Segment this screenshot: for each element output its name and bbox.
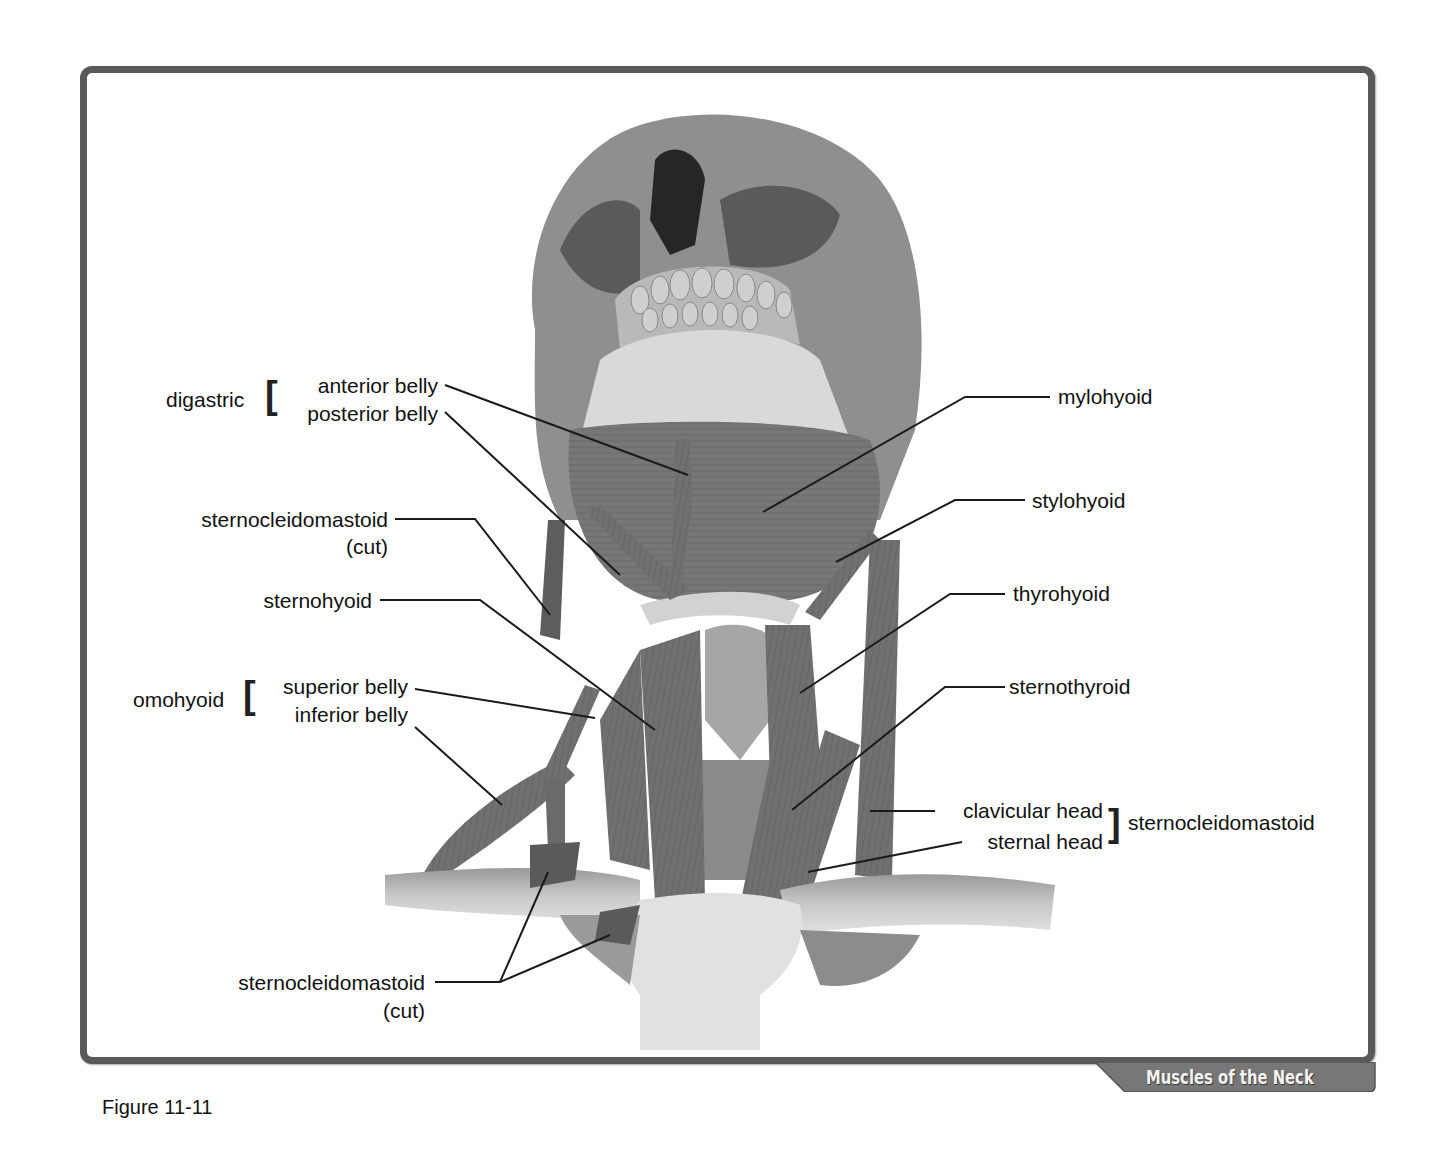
sternocleidomastoid-right — [855, 540, 900, 880]
label-stylohyoid: stylohyoid — [1032, 489, 1125, 513]
label-sternal-head: sternal head — [900, 830, 1103, 854]
sternohyoid-muscle — [640, 630, 705, 900]
bracket-right-icon: ] — [1108, 804, 1121, 842]
label-sternohyoid: sternohyoid — [200, 589, 372, 613]
label-digastric-posterior-belly: posterior belly — [278, 402, 438, 426]
label-clavicular-head: clavicular head — [900, 799, 1103, 823]
thyroid-cartilage — [705, 625, 775, 760]
label-omohyoid: omohyoid — [133, 688, 224, 712]
title-tab-text: Muscles of the Neck — [1146, 1062, 1310, 1092]
label-sternocleidomastoid-cut-upper-note: (cut) — [150, 535, 388, 559]
label-omohyoid-superior-belly: superior belly — [256, 675, 408, 699]
omohyoid-tendon — [545, 780, 565, 850]
sternum-manubrium — [621, 893, 802, 1050]
label-omohyoid-inferior-belly: inferior belly — [256, 703, 408, 727]
label-digastric-anterior-belly: anterior belly — [278, 374, 438, 398]
omohyoid-superior-belly — [545, 685, 600, 770]
label-sternocleidomastoid-cut-upper: sternocleidomastoid — [150, 508, 388, 532]
bracket-left-icon: [ — [265, 376, 278, 414]
label-sternocleidomastoid-cut-lower-note: (cut) — [190, 999, 425, 1023]
clavicle-right — [780, 874, 1055, 935]
label-digastric: digastric — [166, 388, 244, 412]
figure-caption: Figure 11-11 — [102, 1096, 212, 1119]
thyrohyoid-muscle — [765, 625, 820, 780]
label-sternocleidomastoid-heads-group: sternocleidomastoid — [1128, 811, 1315, 835]
label-sternothyroid: sternothyroid — [1009, 675, 1130, 699]
label-sternocleidomastoid-cut-lower: sternocleidomastoid — [190, 971, 425, 995]
label-thyrohyoid: thyrohyoid — [1013, 582, 1110, 606]
sternocleidomastoid-cut-upper-left — [540, 520, 565, 640]
bracket-left-icon: [ — [243, 676, 256, 714]
first-rib-shadow-right — [800, 930, 920, 986]
label-mylohyoid: mylohyoid — [1058, 385, 1153, 409]
